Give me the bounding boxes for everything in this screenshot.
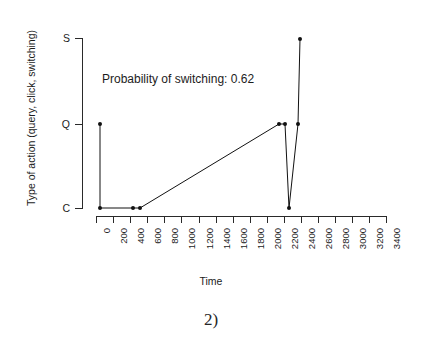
x-axis-tick [164,216,165,223]
data-point [283,122,287,126]
x-axis-tick-label: 2200 [289,228,300,264]
x-axis-tick [301,216,302,223]
x-axis-tick-label: 0 [101,228,112,264]
x-axis-tick [284,216,285,223]
x-axis-tick [113,216,114,223]
x-axis-tick [96,216,97,223]
x-axis-tick [199,216,200,223]
x-axis-tick-label: 1800 [255,228,266,264]
data-point [98,206,102,210]
chart-annotation: Probability of switching: 0.62 [102,72,254,86]
y-axis-label-s: S [50,32,70,44]
x-axis-tick-label: 1000 [186,228,197,264]
y-axis-tick-c [75,208,83,209]
x-axis-tick-label: 600 [152,228,163,264]
data-point [296,122,300,126]
x-axis-tick [233,216,234,223]
x-axis-tick [369,216,370,223]
x-axis-tick-label: 1600 [238,228,249,264]
x-axis-tick [352,216,353,223]
figure-caption: 2) [0,310,422,330]
x-axis-tick [386,216,387,223]
y-axis-tick-q [75,124,83,125]
x-axis-tick [216,216,217,223]
x-axis-tick [181,216,182,223]
x-axis-tick-label: 3200 [374,228,385,264]
y-axis-tick-s [75,38,83,39]
figure-root: Type of action (query, click, switching)… [0,0,422,347]
x-axis-tick [267,216,268,223]
x-axis-tick [147,216,148,223]
plot-area: S Q C 0 200 400 600 800 1000 1200 1400 1… [0,0,422,347]
x-axis-tick-label: 1400 [221,228,232,264]
x-axis-tick-label: 200 [118,228,129,264]
series-polyline [100,39,300,208]
data-point [138,206,142,210]
x-axis-tick-label: 2000 [272,228,283,264]
x-axis-tick-label: 400 [135,228,146,264]
y-axis-label-q: Q [50,118,70,130]
data-point [131,206,135,210]
y-axis-label-c: C [50,202,70,214]
x-axis-tick-label: 2600 [323,228,334,264]
x-axis-tick-label: 3000 [357,228,368,264]
x-axis-tick-label: 2800 [340,228,351,264]
x-axis-tick-label: 1200 [204,228,215,264]
data-point [98,122,102,126]
x-axis-tick [335,216,336,223]
x-axis-tick-label: 800 [169,228,180,264]
data-point [298,37,302,41]
x-axis-tick-label: 3400 [391,228,402,264]
x-axis-tick [130,216,131,223]
data-point [287,206,291,210]
x-axis-spine [96,216,387,217]
x-axis-title: Time [0,275,422,287]
series-line [0,0,422,347]
x-axis-tick-label: 2400 [306,228,317,264]
data-point [277,122,281,126]
x-axis-tick [250,216,251,223]
x-axis-tick [318,216,319,223]
